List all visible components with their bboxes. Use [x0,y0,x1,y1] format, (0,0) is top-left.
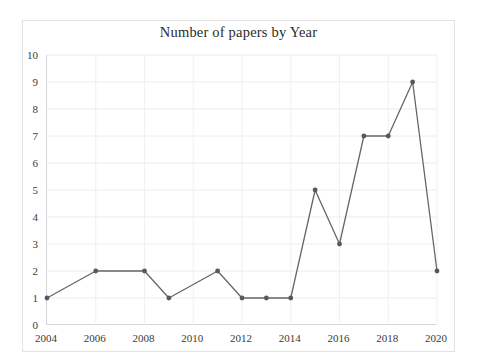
data-point [93,269,98,274]
x-tick-label: 2016 [312,333,366,344]
data-point [288,296,293,301]
plot-area [46,55,436,325]
data-point [435,269,440,274]
data-point [337,242,342,247]
y-tick-label: 3 [8,239,38,250]
x-tick-label: 2020 [409,333,463,344]
data-point [215,269,220,274]
x-tick-label: 2010 [165,333,219,344]
data-point [240,296,245,301]
y-tick-label: 10 [8,50,38,61]
x-tick-label: 2012 [214,333,268,344]
data-point [313,188,318,193]
data-point [264,296,269,301]
y-tick-label: 1 [8,293,38,304]
y-tick-label: 5 [8,185,38,196]
data-point [142,269,147,274]
x-tick-label: 2018 [360,333,414,344]
y-tick-label: 0 [8,320,38,331]
y-tick-label: 2 [8,266,38,277]
y-tick-label: 7 [8,131,38,142]
line-chart-svg [47,55,437,325]
data-point [361,134,366,139]
data-point [410,80,415,85]
data-point [166,296,171,301]
data-point [386,134,391,139]
x-tick-label: 2008 [117,333,171,344]
y-tick-label: 6 [8,158,38,169]
x-tick-label: 2006 [68,333,122,344]
y-tick-label: 8 [8,104,38,115]
chart-title: Number of papers by Year [22,24,455,41]
data-point [45,296,50,301]
x-tick-label: 2004 [19,333,73,344]
chart-figure: Number of papers by Year 012345678910 20… [0,0,477,364]
y-tick-label: 4 [8,212,38,223]
y-tick-label: 9 [8,77,38,88]
x-tick-label: 2014 [263,333,317,344]
